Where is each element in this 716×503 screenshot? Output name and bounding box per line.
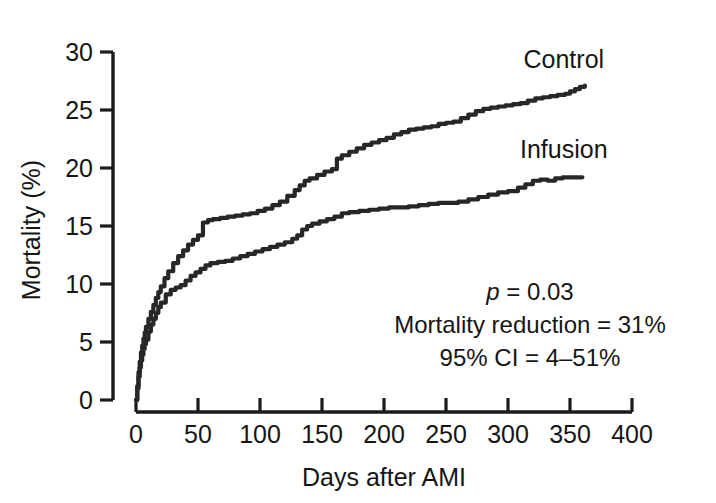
y-tick-labels: 30 25 20 15 10 5 0 [65, 38, 93, 414]
p-value-text: = 0.03 [500, 278, 574, 305]
y-tick-label-10: 10 [65, 270, 93, 298]
statistics-annotation: p = 0.03 Mortality reduction = 31% 95% C… [394, 278, 665, 371]
y-axis-title: Mortality (%) [17, 160, 45, 300]
x-axis-title: Days after AMI [302, 463, 466, 491]
y-tick-label-20: 20 [65, 154, 93, 182]
y-tick-label-30: 30 [65, 38, 93, 66]
y-tick-label-25: 25 [65, 96, 93, 124]
annotation-p-value: p = 0.03 [485, 278, 573, 305]
x-tick-label-350: 350 [549, 420, 591, 448]
x-tick-label-250: 250 [425, 420, 467, 448]
y-axis [100, 52, 113, 400]
chart-canvas: 30 25 20 15 10 5 0 Mortality (%) 0 50 [0, 0, 716, 503]
annotation-mortality-reduction: Mortality reduction = 31% [394, 311, 665, 338]
y-tick-label-15: 15 [65, 212, 93, 240]
kaplan-meier-figure: 30 25 20 15 10 5 0 Mortality (%) 0 50 [0, 0, 716, 503]
x-tick-label-200: 200 [363, 420, 405, 448]
series-label-infusion: Infusion [520, 135, 608, 163]
p-symbol: p [485, 278, 499, 305]
x-tick-label-300: 300 [487, 420, 529, 448]
x-tick-label-50: 50 [184, 420, 212, 448]
x-tick-labels: 0 50 100 150 200 250 300 350 400 [129, 420, 653, 448]
x-axis [136, 398, 632, 412]
x-tick-label-400: 400 [611, 420, 653, 448]
annotation-confidence-interval: 95% CI = 4–51% [440, 344, 621, 371]
x-tick-label-100: 100 [239, 420, 281, 448]
y-tick-label-5: 5 [79, 328, 93, 356]
x-tick-label-150: 150 [301, 420, 343, 448]
x-tick-label-0: 0 [129, 420, 143, 448]
series-label-control: Control [524, 45, 605, 73]
y-tick-label-0: 0 [79, 386, 93, 414]
